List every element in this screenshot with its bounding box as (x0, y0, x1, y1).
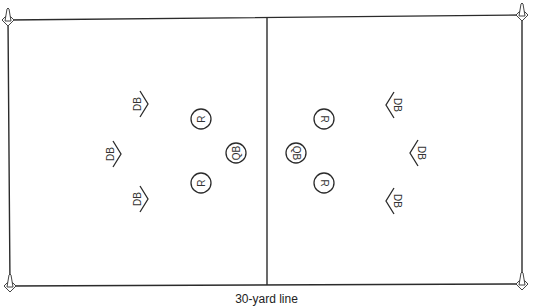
cones (2, 3, 528, 292)
left-player-r-1: R (191, 109, 211, 129)
right-team: DBDBDBRQBR (286, 92, 427, 214)
right-player-r-3: R (314, 173, 334, 193)
player-label: QB (231, 145, 242, 160)
right-player-r-1: R (314, 109, 334, 129)
player-label: R (196, 115, 207, 122)
field-outline (8, 15, 522, 286)
defender-label: DB (416, 146, 427, 160)
player-label: R (319, 115, 330, 122)
defender-label: DB (392, 194, 403, 208)
right-defender-3: DB (386, 188, 403, 214)
field-diagram: DBDBDBRQBR DBDBDBRQBR (0, 0, 533, 307)
defender-label: DB (392, 98, 403, 112)
left-defender-1: DB (132, 91, 149, 117)
caption-30-yard-line: 30-yard line (0, 292, 533, 306)
player-label: QB (291, 146, 302, 161)
cone-bottom-left-icon (4, 274, 16, 292)
player-label: R (319, 179, 330, 186)
right-player-qb-2: QB (286, 143, 306, 163)
left-player-r-3: R (191, 173, 211, 193)
left-team: DBDBDBRQBR (105, 91, 247, 212)
cone-top-left-icon (2, 8, 14, 26)
defender-label: DB (105, 147, 116, 161)
left-player-qb-2: QB (226, 143, 246, 163)
defender-label: DB (132, 97, 143, 111)
defender-label: DB (132, 192, 143, 206)
player-label: R (196, 179, 207, 186)
right-defender-2: DB (410, 140, 427, 166)
cone-bottom-right-icon (516, 272, 528, 290)
right-defender-1: DB (386, 92, 403, 118)
left-defender-3: DB (132, 186, 149, 212)
cone-top-right-icon (516, 3, 528, 21)
field-boundary (8, 15, 522, 286)
left-defender-2: DB (105, 141, 122, 167)
